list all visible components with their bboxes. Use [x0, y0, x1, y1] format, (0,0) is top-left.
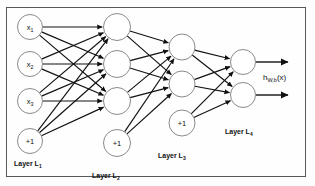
edge-layer-3-to-layer-4 — [194, 101, 231, 118]
edge-layer-2-to-layer-3 — [127, 94, 171, 134]
edge-layer-3-to-layer-4 — [195, 50, 230, 59]
node-bias-1 — [18, 129, 43, 154]
layer-label-layer-1: Layer L1 — [14, 160, 42, 167]
node-hidden2-c — [104, 88, 131, 115]
edge-layer-3-to-layer-4 — [195, 86, 230, 92]
node-hidden3-a — [169, 34, 195, 60]
node-input-x2 — [18, 52, 43, 77]
node-output-b — [231, 83, 256, 108]
edge-layer-2-to-layer-3 — [130, 31, 169, 43]
node-bias-3 — [169, 110, 195, 136]
edge-layer-1-to-layer-2 — [41, 107, 103, 136]
node-input-x3 — [18, 89, 43, 114]
node-bias-2 — [104, 130, 131, 157]
node-hidden2-a — [104, 14, 131, 41]
layer-label-layer-2: Layer L2 — [92, 172, 120, 179]
edge-layer-3-to-layer-4 — [194, 67, 230, 80]
edge-layer-2-to-layer-3 — [125, 59, 174, 132]
node-hidden3-b — [169, 71, 195, 97]
node-output-a — [231, 50, 256, 75]
edge-layer-2-to-layer-3 — [127, 56, 171, 92]
node-input-x1 — [18, 15, 43, 40]
diagram-canvas: x1x2x3+1Layer L1+1Layer L2+1Layer L3Laye… — [0, 0, 315, 186]
network-edges — [38, 27, 234, 136]
hypothesis-output-label: hW,b(x) — [263, 73, 286, 82]
edge-layer-3-to-layer-4 — [192, 55, 232, 86]
edge-layer-2-to-layer-3 — [130, 51, 168, 61]
layer-label-layer-4: Layer L4 — [225, 128, 253, 135]
node-hidden2-b — [104, 51, 131, 78]
layer-label-layer-3: Layer L3 — [158, 152, 186, 159]
